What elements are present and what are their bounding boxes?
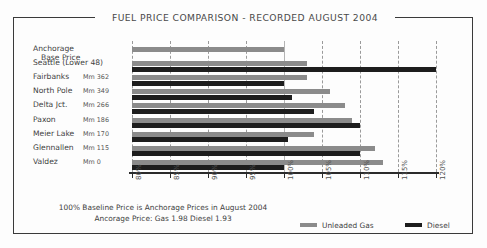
mile-marker-6: Mm 170	[83, 130, 109, 138]
tick-120%	[436, 172, 437, 178]
legend-label-diesel: Diesel	[427, 221, 450, 230]
tick-label-110%: 110%	[363, 160, 371, 180]
bar-diesel-4	[132, 109, 314, 114]
tick-label-105%: 105%	[325, 160, 333, 180]
legend-label-gas: Unleaded Gas	[322, 221, 374, 230]
bar-gas-1	[132, 61, 307, 66]
bar-gas-2	[132, 75, 307, 80]
bar-gas-7	[132, 146, 375, 151]
bar-diesel-8	[132, 165, 284, 170]
category-label-0: Anchorage	[33, 44, 74, 53]
tick-85%	[170, 172, 171, 178]
tick-95%	[246, 172, 247, 178]
mile-marker-3: Mm 349	[83, 87, 109, 95]
tick-label-120%: 120%	[439, 160, 447, 180]
legend-item-diesel: Diesel	[405, 219, 450, 231]
category-label-1: Seattle (Lower 48)	[33, 58, 103, 67]
bar-diesel-2	[132, 81, 284, 86]
bar-gas-8	[132, 160, 383, 165]
chart-figure: FUEL PRICE COMPARISON - RECORDED AUGUST …	[0, 0, 487, 248]
bar-gas-6	[132, 132, 314, 137]
category-label-2: Fairbanks	[33, 72, 69, 81]
category-label-7: Glennallen	[33, 143, 74, 152]
chart-footnote: 100% Baseline Price is Anchorage Prices …	[13, 203, 313, 223]
tick-label-100%: 100%	[287, 160, 295, 180]
chart-title: FUEL PRICE COMPARISON - RECORDED AUGUST …	[112, 12, 378, 23]
category-label-8: Valdez	[33, 157, 58, 166]
category-label-4: Delta Jct.	[33, 100, 67, 109]
tick-label-90%: 90%	[211, 164, 219, 180]
tick-label-85%: 85%	[173, 164, 181, 180]
legend-swatch-diesel	[405, 223, 422, 227]
tick-110%	[360, 172, 361, 178]
gridline-110%	[360, 41, 361, 172]
tick-100%	[284, 172, 285, 178]
footnote-line-1: 100% Baseline Price is Anchorage Prices …	[13, 203, 313, 212]
bar-gas-3	[132, 89, 330, 94]
mile-marker-2: Mm 362	[83, 73, 109, 81]
tick-label-80%: 80%	[135, 164, 143, 180]
tick-80%	[132, 172, 133, 178]
bar-gas-0	[132, 47, 284, 52]
bar-diesel-1	[132, 67, 436, 72]
bar-diesel-7	[132, 151, 360, 156]
legend-item-gas: Unleaded Gas	[300, 219, 374, 231]
bar-gas-5	[132, 118, 352, 123]
bar-diesel-5	[132, 123, 360, 128]
chart-title-container: FUEL PRICE COMPARISON - RECORDED AUGUST …	[95, 10, 395, 25]
gridline-115%	[398, 41, 399, 172]
mile-marker-8: Mm 0	[83, 158, 101, 166]
tick-105%	[322, 172, 323, 178]
tick-label-95%: 95%	[249, 164, 257, 180]
chart-legend: Unleaded GasDiesel	[300, 219, 470, 231]
mile-marker-5: Mm 186	[83, 116, 109, 124]
tick-90%	[208, 172, 209, 178]
gridline-120%	[436, 41, 437, 172]
legend-swatch-gas	[300, 223, 317, 227]
bar-gas-4	[132, 103, 345, 108]
footnote-line-2: Ancorage Price: Gas 1.98 Diesel 1.93	[13, 214, 313, 223]
category-label-6: Meier Lake	[33, 129, 74, 138]
bar-diesel-3	[132, 95, 292, 100]
tick-label-115%: 115%	[401, 160, 409, 180]
tick-115%	[398, 172, 399, 178]
mile-marker-4: Mm 266	[83, 101, 109, 109]
bar-diesel-6	[132, 137, 288, 142]
category-label-3: North Pole	[33, 86, 72, 95]
category-label-5: Paxon	[33, 115, 56, 124]
mile-marker-7: Mm 115	[83, 144, 109, 152]
